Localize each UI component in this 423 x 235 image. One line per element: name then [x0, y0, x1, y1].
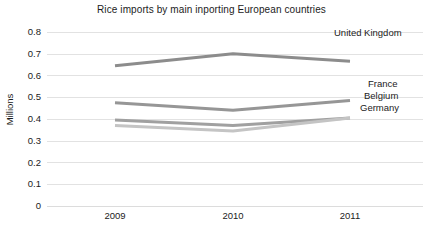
rice-imports-line-chart: Rice imports by main inporting European … [0, 0, 423, 235]
series-label-france: France [368, 78, 398, 89]
series-line-france [115, 101, 350, 111]
plot-area: 0.8 0.7 0.6 0.5 0.4 0.3 0.2 0.1 0 Millio… [0, 0, 423, 235]
series-label-belgium: Belgium [364, 90, 398, 101]
series-line-united-kingdom [115, 54, 350, 66]
series-label-united-kingdom: United Kingdom [334, 27, 402, 38]
series-label-germany: Germany [360, 102, 399, 113]
